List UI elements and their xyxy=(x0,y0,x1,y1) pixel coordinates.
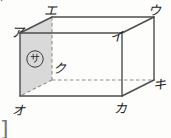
vertex-label-ka: カ xyxy=(114,102,127,115)
vertex-label-u: ウ xyxy=(148,4,161,17)
cuboid-svg xyxy=(0,0,171,138)
vertex-label-o: オ xyxy=(12,104,25,117)
vertex-label-ki: キ xyxy=(153,78,166,91)
edge-ka-ki xyxy=(122,80,154,96)
vertex-label-a: ア xyxy=(11,26,24,39)
vertex-label-i: イ xyxy=(110,30,123,43)
bottom-left-bracket-fragment: ] xyxy=(0,118,12,138)
vertex-label-e: エ xyxy=(44,4,57,17)
rectangular-prism-figure: サ ア エ ウ イ オ ク カ キ ⌐ ] xyxy=(0,0,171,138)
shaded-face-tag-label: サ xyxy=(30,54,40,64)
edge-u-i xyxy=(122,17,154,33)
top-left-cropped-glyph: ⌐ xyxy=(0,0,10,6)
vertex-label-ku: ク xyxy=(53,62,66,75)
